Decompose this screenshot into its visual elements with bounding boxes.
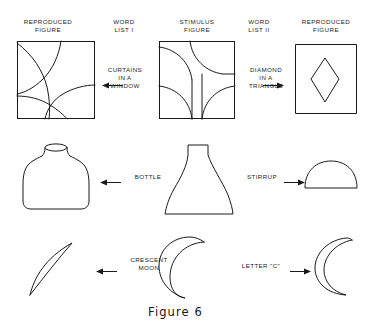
figure-semicircle-dome-shape [304, 160, 358, 190]
figure-thin-sliver-crescent [25, 240, 85, 298]
column-header-reproduced-left: REPRODUCED FIGURE [6, 18, 90, 33]
label-stirrup: STIRRUP [237, 173, 287, 181]
figure-rectangle-with-symmetric-corner-arcs [159, 41, 235, 119]
figure-rectangle-with-diamond [295, 44, 357, 114]
figure-narrow-crescent-c-shape [314, 237, 360, 297]
column-header-word-list-1: WORD LIST I [93, 18, 155, 33]
figure-thick-crescent-moon [158, 237, 216, 299]
arrow-right-row-3 [289, 262, 311, 280]
figure-flask-vase-shape [158, 145, 238, 215]
column-header-reproduced-right: REPRODUCED FIGURE [284, 18, 368, 33]
figure-caption: Figure 6 [148, 305, 203, 319]
label-curtains-in-a-window: CURTAINS IN A WINDOW [95, 66, 155, 89]
figure-page: REPRODUCED FIGURE WORD LIST I STIMULUS F… [0, 0, 370, 335]
figure-bottle-shape [21, 143, 91, 211]
column-header-stimulus: STIMULUS FIGURE [158, 18, 236, 33]
arrow-right-row-1 [262, 76, 284, 94]
arrow-left-row-2 [100, 173, 122, 191]
label-letter-c: LETTER "C" [232, 262, 290, 270]
figure-rectangle-with-four-arcs [17, 41, 95, 119]
arrow-left-row-3 [96, 262, 118, 280]
arrow-right-row-2 [283, 173, 305, 191]
column-header-word-list-2: WORD LIST II [228, 18, 290, 33]
